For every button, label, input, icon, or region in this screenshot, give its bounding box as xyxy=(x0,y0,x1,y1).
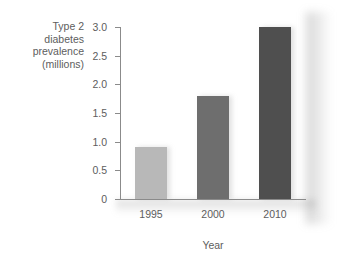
y-axis-tick-label: 3.0 xyxy=(92,22,107,33)
y-axis-tick: 2.0 xyxy=(115,84,120,85)
x-axis-title: Year xyxy=(120,239,306,251)
y-axis-title-line-1: Type 2 xyxy=(6,20,84,33)
bar-2010[interactable] xyxy=(259,27,291,199)
y-axis-tick: 1.0 xyxy=(115,142,120,143)
plot-area: 00.51.01.52.02.53.0 199520002010 xyxy=(120,27,306,200)
y-axis-title-line-2: diabetes xyxy=(6,33,84,46)
y-axis-tick-label: 0 xyxy=(101,194,107,205)
y-axis-title-line-3: prevalence xyxy=(6,45,84,58)
figure-drop-shadow-right xyxy=(306,12,332,224)
y-axis-tick-label: 0.5 xyxy=(92,165,107,176)
y-axis-tick: 1.5 xyxy=(115,113,120,114)
y-axis-tick-label: 1.0 xyxy=(92,136,107,147)
x-axis-tick-label-2010: 2010 xyxy=(263,208,286,220)
y-axis-tick: 2.5 xyxy=(115,56,120,57)
bar-2000[interactable] xyxy=(197,96,229,199)
y-axis-title: Type 2 diabetes prevalence (millions) xyxy=(6,20,84,70)
y-axis-tick-label: 2.5 xyxy=(92,50,107,61)
y-axis-tick-label: 1.5 xyxy=(92,108,107,119)
y-axis-title-line-4: (millions) xyxy=(6,58,84,71)
bar-chart-figure: Type 2 diabetes prevalence (millions) 00… xyxy=(0,0,344,268)
y-axis-tick-label: 2.0 xyxy=(92,79,107,90)
y-axis-tick: 0 xyxy=(115,199,120,200)
x-axis-tick-label-2000: 2000 xyxy=(201,208,224,220)
y-axis-tick: 0.5 xyxy=(115,170,120,171)
y-axis-tick: 3.0 xyxy=(115,27,120,28)
x-axis-line xyxy=(120,199,306,200)
y-axis-line xyxy=(120,27,121,200)
x-axis-tick-label-1995: 1995 xyxy=(139,208,162,220)
bar-1995[interactable] xyxy=(135,147,167,199)
